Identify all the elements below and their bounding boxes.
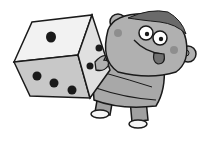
die-pip xyxy=(87,63,94,70)
illustration: Grayscale cartoon of a smiling character… xyxy=(0,0,210,141)
left-cheek xyxy=(114,29,122,37)
die-pip xyxy=(50,79,59,88)
die-pip xyxy=(68,86,77,95)
character-head xyxy=(106,11,196,76)
die-pip xyxy=(96,45,103,52)
tongue-icon xyxy=(154,53,165,64)
dice-character-drawing xyxy=(0,0,210,141)
die-pip xyxy=(33,72,42,81)
die-pip xyxy=(46,32,56,43)
die-icon xyxy=(14,15,110,98)
right-shoe-icon xyxy=(129,120,147,128)
right-cheek xyxy=(170,46,178,54)
left-shoe-icon xyxy=(91,110,109,118)
die-front-face xyxy=(14,55,90,98)
